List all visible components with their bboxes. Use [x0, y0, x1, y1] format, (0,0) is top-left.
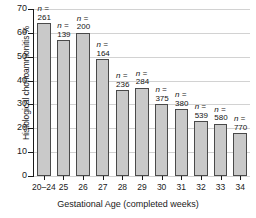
bar-sample-size-label: n =236 [116, 72, 129, 89]
bar [233, 133, 247, 176]
x-axis-tick [181, 176, 182, 180]
bar-sample-size-label: n =380 [175, 91, 188, 108]
y-axis-tick-label: 30 [1, 99, 27, 108]
y-axis-tick [28, 152, 33, 153]
bar-sample-size-label: n =200 [77, 15, 90, 32]
bar [76, 33, 90, 176]
y-axis-tick [28, 9, 33, 10]
y-axis-tick [28, 33, 33, 34]
x-axis-tick [201, 176, 202, 180]
y-axis-tick-label: 50 [1, 52, 27, 61]
y-axis-tick-label: 10 [1, 147, 27, 156]
bar [37, 23, 51, 176]
y-axis-tick-label: 60 [1, 28, 27, 37]
bar [135, 88, 149, 176]
x-axis-tick [142, 176, 143, 180]
bar-sample-size-label: n =375 [155, 86, 168, 103]
bar-sample-size-label: n =284 [136, 70, 149, 87]
y-axis-tick-label: 20 [1, 123, 27, 132]
x-axis-tick-label: 34 [224, 182, 256, 192]
x-axis-tick [162, 176, 163, 180]
y-axis-tick [28, 128, 33, 129]
gridline [34, 9, 250, 10]
histological-chorioamnionitis-bar-chart: Histological chorioamnionitis % 01020304… [0, 0, 256, 218]
y-axis-tick [28, 104, 33, 105]
bar [155, 104, 169, 176]
bar [96, 59, 110, 176]
bar [194, 121, 208, 176]
x-axis-tick [44, 176, 45, 180]
y-axis-tick [28, 81, 33, 82]
y-axis-tick-label: 70 [1, 4, 27, 13]
bar [57, 40, 71, 176]
bar [214, 124, 228, 176]
bar [116, 90, 130, 176]
y-axis-tick-labels: 010203040506070 [0, 0, 27, 218]
y-axis-tick-label: 0 [1, 171, 27, 180]
x-axis-tick [63, 176, 64, 180]
bar-sample-size-label: n =139 [57, 22, 70, 39]
y-axis-tick [28, 176, 33, 177]
bar [175, 109, 189, 176]
plot-area: n =261n =139n =200n =164n =236n =284n =3… [34, 9, 250, 176]
x-axis-title: Gestational Age (completed weeks) [0, 199, 256, 209]
x-axis-tick [103, 176, 104, 180]
bar-sample-size-label: n =770 [234, 115, 247, 132]
x-axis-tick [122, 176, 123, 180]
x-axis-tick [221, 176, 222, 180]
bar-sample-size-label: n =580 [214, 106, 227, 123]
y-axis-tick [28, 57, 33, 58]
y-axis-tick-label: 40 [1, 76, 27, 85]
bar-sample-size-label: n =164 [96, 41, 109, 58]
bar-sample-size-label: n =261 [38, 5, 51, 22]
x-axis-tick [240, 176, 241, 180]
bar-sample-size-label: n =539 [195, 103, 208, 120]
x-axis-tick [83, 176, 84, 180]
